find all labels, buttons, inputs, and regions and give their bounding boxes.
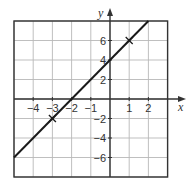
y-tick-label: −2	[93, 113, 106, 125]
y-tick-label: −4	[93, 132, 106, 144]
y-tick-label: 2	[100, 74, 106, 86]
x-tick-label: 1	[126, 102, 132, 114]
x-tick-label: −3	[46, 102, 59, 114]
y-axis-label: y	[97, 6, 104, 20]
coordinate-plane: x y −4−3−2−112642−2−4−6	[0, 0, 191, 185]
x-axis-label: x	[177, 100, 184, 114]
y-tick-label: 6	[100, 35, 106, 47]
y-tick-label: −6	[93, 152, 106, 164]
x-tick-label: −4	[27, 102, 40, 114]
x-tick-label: 2	[145, 102, 151, 114]
y-axis-arrow-icon	[107, 8, 113, 16]
